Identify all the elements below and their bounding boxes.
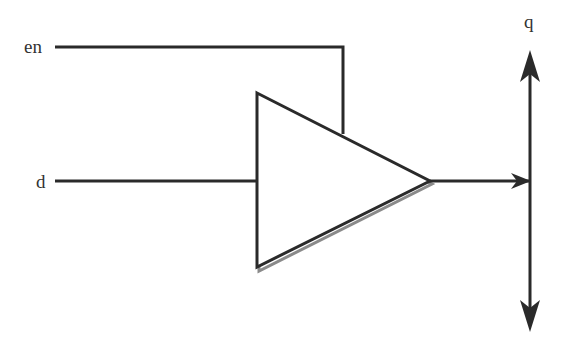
tristate-buffer-diagram: en d q xyxy=(0,0,572,350)
label-d: d xyxy=(36,171,46,192)
label-en: en xyxy=(24,36,42,57)
label-q: q xyxy=(524,11,534,32)
